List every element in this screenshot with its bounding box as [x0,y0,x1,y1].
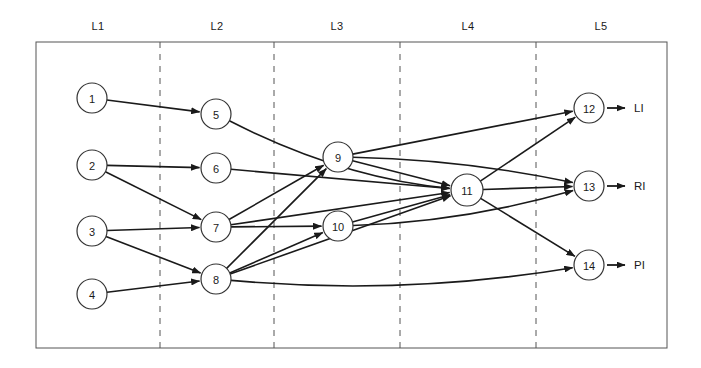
node-label-12: 12 [583,103,595,115]
node-6[interactable]: 6 [201,153,231,183]
edge-n1-to-n5 [107,100,200,112]
diagram-canvas: 1234567891011121314 L1L2L3L4L5 LIRIPI [0,0,701,368]
node-13[interactable]: 13 [574,171,604,201]
edge-n8-to-n14 [231,268,573,286]
edge-n10-to-n11 [352,195,450,222]
node-label-2: 2 [89,160,95,172]
layer-label-l4: L4 [462,20,475,32]
node-12[interactable]: 12 [574,93,604,123]
node-label-3: 3 [89,226,95,238]
node-1[interactable]: 1 [77,83,107,113]
node-label-10: 10 [332,221,344,233]
node-2[interactable]: 2 [77,150,107,180]
output-label-li: LI [634,102,644,114]
node-14[interactable]: 14 [574,250,604,280]
edge-n8-to-n10 [230,233,323,273]
edges-group [105,100,575,292]
node-3[interactable]: 3 [77,216,107,246]
edge-n7-to-n10 [231,226,322,227]
edge-n9-to-n12 [353,111,573,154]
edge-n2-to-n7 [105,172,201,220]
node-10[interactable]: 10 [323,211,353,241]
layer-label-l1: L1 [92,20,105,32]
edge-n3-to-n7 [107,228,200,231]
node-label-6: 6 [213,163,219,175]
node-label-1: 1 [89,93,95,105]
node-label-13: 13 [583,181,595,193]
layer-label-l5: L5 [595,20,608,32]
edge-n11-to-n14 [481,198,575,256]
node-label-8: 8 [213,274,219,286]
node-11[interactable]: 11 [451,174,483,206]
layer-label-l3: L3 [331,20,344,32]
diagram-frame [36,42,667,348]
output-label-pi: PI [634,259,645,271]
node-8[interactable]: 8 [201,264,231,294]
edge-n11-to-n13 [483,187,573,190]
output-arrows-group [607,108,625,265]
edge-n3-to-n8 [106,236,201,273]
node-4[interactable]: 4 [77,279,107,309]
network-diagram-svg: 1234567891011121314 [0,0,701,368]
layer-label-l2: L2 [211,20,224,32]
node-7[interactable]: 7 [201,212,231,242]
node-5[interactable]: 5 [201,99,231,129]
node-label-14: 14 [583,260,595,272]
node-label-4: 4 [89,289,95,301]
edge-n4-to-n8 [107,281,200,292]
node-label-9: 9 [335,152,341,164]
node-9[interactable]: 9 [323,142,353,172]
edge-n2-to-n6 [107,165,200,167]
node-label-7: 7 [213,222,219,234]
node-label-11: 11 [461,185,472,197]
node-label-5: 5 [213,109,219,121]
output-label-ri: RI [634,180,646,192]
